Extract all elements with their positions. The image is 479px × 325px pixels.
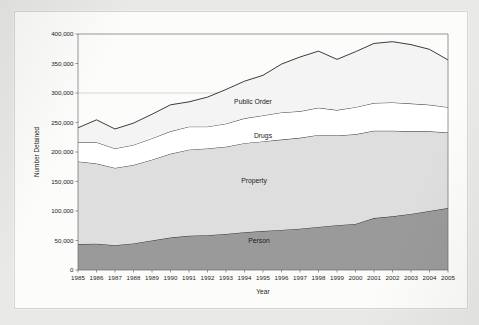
x-tick-label: 1999: [330, 274, 344, 281]
x-tick-label: 1992: [201, 274, 215, 281]
y-tick-label: 200,000: [51, 148, 74, 155]
x-tick-label: 1991: [182, 274, 196, 281]
stacked-area-chart: 050,000100,000150,000200,000250,000300,0…: [15, 12, 467, 308]
x-tick-label: 1994: [238, 274, 252, 281]
x-tick-label: 1998: [312, 274, 326, 281]
x-tick-label: 2004: [423, 274, 437, 281]
x-tick-label: 1988: [127, 274, 141, 281]
y-tick-label: 100,000: [51, 207, 74, 214]
x-tick-label: 1996: [275, 274, 289, 281]
series-label-drugs: Drugs: [254, 132, 273, 140]
x-tick-label: 1990: [164, 274, 178, 281]
series-label-public-order: Public Order: [234, 98, 273, 105]
chart-container: 050,000100,000150,000200,000250,000300,0…: [15, 12, 467, 308]
x-tick-label: 2001: [367, 274, 381, 281]
y-tick-label: 300,000: [51, 89, 74, 96]
x-tick-label: 1987: [108, 274, 122, 281]
series-label-person: Person: [248, 237, 270, 244]
x-tick-label: 2003: [404, 274, 418, 281]
y-tick-label: 0: [70, 266, 74, 273]
x-tick-label: 2000: [349, 274, 363, 281]
x-tick-label: 1986: [90, 274, 104, 281]
page-root: 050,000100,000150,000200,000250,000300,0…: [0, 0, 479, 325]
y-tick-label: 350,000: [51, 60, 74, 67]
y-tick-label: 400,000: [51, 30, 74, 37]
y-tick-label: 250,000: [51, 119, 74, 126]
x-tick-label: 1989: [145, 274, 159, 281]
x-tick-label: 2002: [386, 274, 400, 281]
x-tick-label: 2005: [441, 274, 455, 281]
x-tick-label: 1997: [293, 274, 307, 281]
y-tick-label: 150,000: [51, 178, 74, 185]
y-axis-title: Number Detained: [33, 127, 40, 178]
y-tick-label: 50,000: [55, 237, 74, 244]
series-label-property: Property: [241, 177, 267, 185]
x-tick-label: 1995: [256, 274, 270, 281]
x-tick-label: 1985: [71, 274, 85, 281]
x-axis-title: Year: [256, 288, 270, 295]
x-tick-label: 1993: [219, 274, 233, 281]
figure-card: 050,000100,000150,000200,000250,000300,0…: [14, 11, 468, 309]
